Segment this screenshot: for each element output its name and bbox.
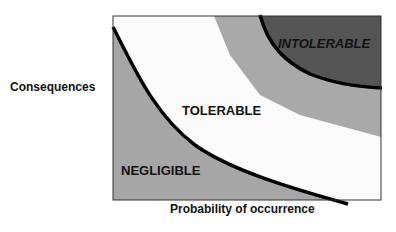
tolerable-label: TOLERABLE (182, 103, 262, 118)
risk-diagram: TOLERABLE NEGLIGIBLE INTOLERABLE (0, 0, 396, 232)
intolerable-label: INTOLERABLE (278, 36, 371, 51)
negligible-label: NEGLIGIBLE (121, 163, 201, 178)
